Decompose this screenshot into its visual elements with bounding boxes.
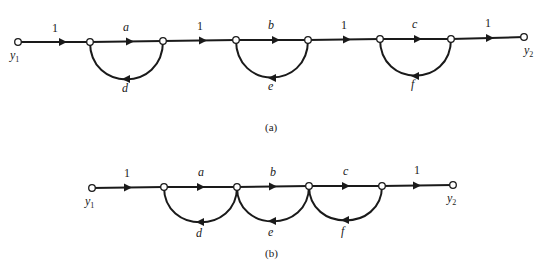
feedback-loop-f <box>380 39 451 76</box>
node-y2 <box>521 34 528 41</box>
node-y1 <box>15 39 22 46</box>
feedback-loop-e <box>236 40 308 78</box>
gain-label: 1 <box>485 16 491 30</box>
gain-label: 1 <box>124 166 130 180</box>
gain-label: c <box>412 17 418 31</box>
input-label: y1 <box>84 194 94 210</box>
node <box>377 36 384 43</box>
node <box>379 183 386 190</box>
gain-label: a <box>123 20 129 34</box>
node-y2 <box>450 182 457 189</box>
node <box>305 37 312 44</box>
feedback-loop-d <box>164 187 237 222</box>
node <box>161 184 168 191</box>
arrow-right-icon <box>413 182 421 190</box>
feedback-loop-f <box>309 186 382 221</box>
feedback-label: e <box>268 79 274 93</box>
arrow-right-icon <box>342 182 350 190</box>
gain-label: c <box>343 164 349 178</box>
gain-label: 1 <box>341 18 347 32</box>
diagram-b: 1 a b c 1 d e f y1 y2 (b) <box>84 163 456 260</box>
node <box>87 39 94 46</box>
feedback-label: d <box>196 226 203 240</box>
signal-flow-graphs: 1 a 1 b 1 c 1 d e f y1 y2 (a) <box>0 0 547 269</box>
node <box>448 36 455 43</box>
node <box>306 183 313 190</box>
gain-label: 1 <box>414 163 420 177</box>
output-label: y2 <box>446 191 456 207</box>
output-label: y2 <box>523 43 533 59</box>
gain-label: b <box>268 18 274 32</box>
gain-label: a <box>198 165 204 179</box>
gain-label: b <box>270 165 276 179</box>
caption-a: (a) <box>265 121 278 134</box>
arrow-right-icon <box>59 38 67 46</box>
feedback-label: d <box>122 81 129 95</box>
gain-label: 1 <box>52 21 58 35</box>
node <box>160 38 167 45</box>
input-label: y1 <box>9 48 19 64</box>
node-y1 <box>89 185 96 192</box>
arrow-right-icon <box>199 37 207 45</box>
arrow-right-icon <box>197 183 205 191</box>
feedback-label: e <box>268 225 274 239</box>
arrow-left-icon <box>341 216 349 224</box>
arrow-left-icon <box>268 217 276 225</box>
feedback-label: f <box>411 77 416 91</box>
feedback-loop-e <box>237 186 309 221</box>
feedback-label: f <box>341 224 346 238</box>
feedback-loop-d <box>90 41 163 79</box>
arrow-right-icon <box>126 38 134 46</box>
arrow-left-icon <box>196 218 204 226</box>
diagram-a: 1 a 1 b 1 c 1 d e f y1 y2 (a) <box>9 16 533 134</box>
arrow-right-icon <box>343 36 351 44</box>
arrow-right-icon <box>272 36 280 44</box>
arrow-right-icon <box>269 183 277 191</box>
arrow-right-icon <box>414 35 422 43</box>
node <box>234 184 241 191</box>
caption-b: (b) <box>265 247 278 260</box>
arrow-right-icon <box>124 184 132 192</box>
node <box>233 37 240 44</box>
gain-label: 1 <box>197 19 203 33</box>
arrow-right-icon <box>486 34 494 42</box>
